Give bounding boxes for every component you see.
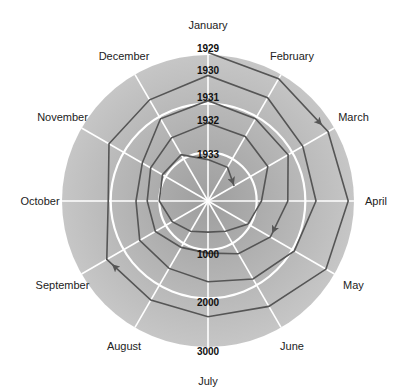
value-label-2000: 2000: [197, 297, 220, 308]
month-label-august: August: [107, 340, 141, 352]
month-label-may: May: [343, 279, 364, 291]
year-label-1931: 1931: [197, 92, 220, 103]
month-label-october: October: [20, 195, 59, 207]
year-label-1930: 1930: [197, 65, 220, 76]
year-label-1933: 1933: [197, 149, 220, 160]
year-label-1932: 1932: [197, 115, 220, 126]
month-label-april: April: [365, 195, 387, 207]
month-label-december: December: [99, 50, 150, 62]
spiral-chart: JanuaryFebruaryMarchAprilMayJuneJulyAugu…: [0, 0, 401, 391]
value-label-3000: 3000: [197, 346, 220, 357]
value-label-1000: 1000: [197, 249, 220, 260]
month-label-september: September: [36, 279, 90, 291]
month-label-november: November: [37, 111, 88, 123]
month-label-february: February: [270, 50, 315, 62]
month-label-march: March: [338, 111, 369, 123]
month-label-january: January: [188, 19, 228, 31]
month-label-july: July: [198, 375, 218, 387]
month-label-june: June: [280, 340, 304, 352]
year-label-1929: 1929: [197, 43, 220, 54]
